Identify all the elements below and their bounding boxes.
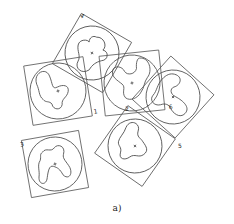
figure-caption: a) xyxy=(0,203,234,213)
part-3: 3 xyxy=(19,130,88,198)
center-cross-icon xyxy=(133,144,137,148)
center-cross-icon xyxy=(90,51,94,55)
part-label: 5 xyxy=(178,142,182,149)
part-6: 6 xyxy=(99,49,173,117)
center-cross-icon xyxy=(56,89,59,92)
part-2 xyxy=(95,106,176,187)
part-4: 4 xyxy=(52,12,132,93)
blob-shape xyxy=(111,57,153,101)
part-label: 2 xyxy=(125,105,129,112)
nesting-diagram: 4 1 6 5 xyxy=(0,0,234,224)
center-cross-icon xyxy=(130,81,133,84)
part-1: 1 xyxy=(24,56,99,126)
blob-shape xyxy=(34,144,72,184)
blob-shape xyxy=(110,120,156,168)
center-cross-icon xyxy=(53,162,56,165)
part-label: 3 xyxy=(19,140,24,148)
part-5 xyxy=(132,56,214,138)
blob-shape xyxy=(35,68,71,112)
part-label: 1 xyxy=(93,107,98,115)
